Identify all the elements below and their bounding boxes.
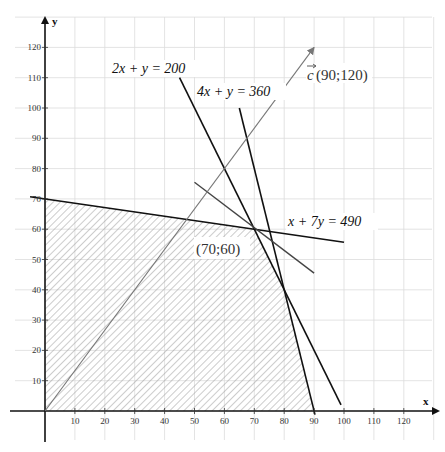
y-tick-label: 70 [32, 194, 42, 204]
y-tick-label: 50 [32, 255, 42, 265]
eq1-label: 2x + y = 200 [110, 60, 200, 77]
y-tick-label: 40 [32, 285, 42, 295]
eq3-text: x + 7y = 490 [287, 214, 361, 229]
x-tick-label: 20 [100, 416, 110, 426]
feasible-region-hatch [45, 199, 314, 411]
vector-label: c (90;120) [306, 63, 372, 84]
y-tick-label: 90 [32, 133, 42, 143]
x-tick-label: 60 [220, 416, 230, 426]
x-axis-label: x [423, 395, 429, 407]
eq2-label: 4x + y = 360 [196, 83, 286, 100]
y-tick-label: 10 [32, 376, 42, 386]
y-tick-label: 100 [28, 103, 42, 113]
x-tick-label: 80 [280, 416, 290, 426]
feasible-region [45, 199, 314, 411]
eq2-text: 4x + y = 360 [197, 84, 270, 99]
y-tick-label: 20 [32, 345, 42, 355]
y-tick-label: 80 [32, 164, 42, 174]
x-tick-label: 50 [190, 416, 200, 426]
x-tick-label: 100 [337, 416, 351, 426]
y-tick-label: 60 [32, 224, 42, 234]
y-tick-label: 110 [28, 73, 42, 83]
x-tick-label: 30 [130, 416, 140, 426]
lp-graph: 1020304050607080901001101201020304050607… [0, 0, 445, 452]
vector-symbol: c [307, 67, 314, 83]
optimum-label: (70;60) [194, 237, 250, 259]
y-tick-label: 120 [28, 42, 42, 52]
x-axis-arrow-icon [432, 407, 440, 415]
x-tick-label: 90 [310, 416, 320, 426]
vector-coords: (90;120) [316, 67, 368, 84]
y-axis-label: y [52, 15, 58, 27]
x-tick-label: 10 [70, 416, 80, 426]
eq1-text: 2x + y = 200 [112, 61, 185, 76]
x-tick-label: 70 [250, 416, 260, 426]
x-tick-label: 40 [160, 416, 170, 426]
eq3-label: x + 7y = 490 [286, 213, 378, 230]
y-tick-label: 30 [32, 315, 42, 325]
optimum-text: (70;60) [196, 241, 240, 258]
x-tick-label: 110 [367, 416, 381, 426]
x-tick-label: 120 [397, 416, 411, 426]
